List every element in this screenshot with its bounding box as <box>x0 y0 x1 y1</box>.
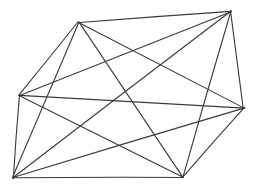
graph-edge-ad <box>79 23 244 108</box>
complete-graph-k6-drawing <box>0 0 257 192</box>
graph-edge-de <box>13 108 245 178</box>
graph-edge-ae <box>12 22 78 177</box>
edge-layer <box>12 11 244 179</box>
graph-edge-cf <box>19 95 183 177</box>
graph-edge-bc <box>19 12 231 96</box>
graph-edge-df <box>183 107 245 177</box>
graph-edge-ce <box>13 95 19 179</box>
graph-edge-bf <box>183 11 231 178</box>
graph-edge-cd <box>20 95 245 108</box>
graph-edge-be <box>12 11 230 178</box>
graph-edge-bd <box>230 11 243 109</box>
figure-container <box>0 0 257 192</box>
